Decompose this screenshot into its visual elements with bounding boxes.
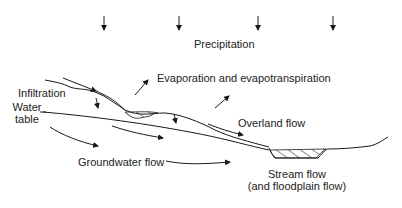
ground-surface: [43, 78, 388, 158]
precipitation-arrows: [104, 16, 333, 30]
label-precipitation: Precipitation: [194, 38, 255, 50]
label-groundwater-flow: Groundwater flow: [78, 156, 164, 168]
evaporation-arrow-icon: [215, 96, 229, 108]
groundwater-arrow-icon: [166, 161, 230, 164]
label-infiltration: Infiltration: [18, 87, 66, 99]
infiltration-arrow-icon: [96, 98, 98, 108]
label-stream-flow: Stream flow (and floodplain flow): [247, 168, 347, 192]
groundwater-arrow-icon: [50, 127, 98, 146]
label-stream-flow-line2: (and floodplain flow): [247, 180, 347, 192]
infiltration-arrow-icon: [174, 114, 176, 123]
label-evaporation: Evaporation and evapotranspiration: [157, 72, 331, 84]
stream-channel: [270, 149, 326, 158]
evaporation-arrows: [135, 80, 229, 108]
depression-storage: [125, 112, 158, 119]
groundwater-arrow-icon: [112, 126, 163, 138]
label-stream-flow-line1: Stream flow: [247, 168, 347, 180]
label-overland-flow: Overland flow: [238, 117, 305, 129]
label-water-table-line1: Water: [12, 101, 42, 113]
label-water-table: Water table: [12, 101, 42, 125]
evaporation-arrow-icon: [135, 80, 148, 95]
label-water-table-line2: table: [12, 113, 42, 125]
